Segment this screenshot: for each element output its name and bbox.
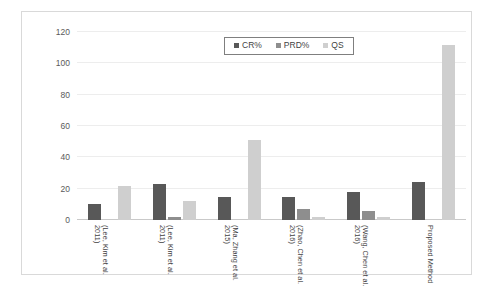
x-axis-label-slot: (Lee, Kim et al. 2011) xyxy=(77,221,142,286)
x-axis-label-slot: (Lee, Kim et al. 2011) xyxy=(142,221,207,286)
x-axis-label-slot: (Zhao, Chen et al. 2016) xyxy=(272,221,337,286)
bar-prd[interactable] xyxy=(168,217,181,220)
bar-prd[interactable] xyxy=(362,211,375,220)
x-axis-tick-label: (Wang, Chen et al. 2016) xyxy=(352,225,369,286)
chart-frame: 020406080100120 (Lee, Kim et al. 2011)(L… xyxy=(21,11,472,275)
x-axis-tick-label: (Ma, Zhang et al. 2015) xyxy=(222,225,239,286)
bar-qs[interactable] xyxy=(312,217,325,220)
chart-legend: CR%PRD%QS xyxy=(224,37,354,55)
bar-group xyxy=(77,32,142,220)
x-axis-tick-labels: (Lee, Kim et al. 2011)(Lee, Kim et al. 2… xyxy=(77,221,466,286)
y-axis-tick-labels: 020406080100120 xyxy=(30,32,70,220)
y-axis-tick-label: 100 xyxy=(36,59,70,68)
bar-group xyxy=(207,32,272,220)
bar-qs[interactable] xyxy=(248,140,261,220)
legend-item[interactable]: QS xyxy=(323,41,343,50)
x-axis-tick-label: Proposed Method xyxy=(425,225,433,286)
x-axis-tick-label: (Lee, Kim et al. 2011) xyxy=(93,225,110,286)
bar-group xyxy=(401,32,466,220)
bar-group xyxy=(336,32,401,220)
legend-swatch-cr xyxy=(234,43,239,48)
x-axis-label-slot: (Ma, Zhang et al. 2015) xyxy=(207,221,272,286)
x-axis-tick-label: (Zhao, Chen et al. 2016) xyxy=(287,225,304,286)
plot-area xyxy=(77,32,466,220)
x-axis-label-slot: Proposed Method xyxy=(401,221,466,286)
bar-qs[interactable] xyxy=(377,217,390,220)
bar-group xyxy=(272,32,337,220)
legend-item[interactable]: PRD% xyxy=(276,41,310,50)
bar-cr[interactable] xyxy=(412,182,425,220)
x-axis-label-slot: (Wang, Chen et al. 2016) xyxy=(336,221,401,286)
legend-swatch-qs xyxy=(323,43,328,48)
bar-qs[interactable] xyxy=(118,186,131,220)
legend-item-label: QS xyxy=(331,41,343,50)
legend-item-label: PRD% xyxy=(284,41,310,50)
y-axis-tick-label: 20 xyxy=(36,184,70,193)
bar-cr[interactable] xyxy=(218,197,231,221)
y-axis-tick-label: 80 xyxy=(36,90,70,99)
bar-group xyxy=(142,32,207,220)
y-axis-tick-label: 60 xyxy=(36,122,70,131)
bar-qs[interactable] xyxy=(442,45,455,220)
bar-prd[interactable] xyxy=(297,209,310,220)
y-axis-tick-label: 0 xyxy=(36,216,70,225)
y-axis-tick-label: 40 xyxy=(36,153,70,162)
legend-item[interactable]: CR% xyxy=(234,41,262,50)
x-axis-tick-label: (Lee, Kim et al. 2011) xyxy=(157,225,174,286)
bar-cr[interactable] xyxy=(282,197,295,221)
y-axis-tick-label: 120 xyxy=(36,28,70,37)
legend-swatch-prd xyxy=(276,43,281,48)
bar-cr[interactable] xyxy=(88,204,101,220)
bar-qs[interactable] xyxy=(183,201,196,220)
legend-item-label: CR% xyxy=(242,41,262,50)
bar-cr[interactable] xyxy=(347,192,360,220)
bar-cr[interactable] xyxy=(153,184,166,220)
